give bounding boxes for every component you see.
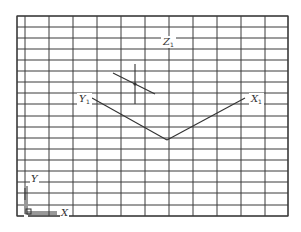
y1-axis-label-subscript: 1 (86, 98, 90, 105)
marker-point (133, 82, 136, 85)
z1-axis-label-subscript: 1 (170, 41, 174, 48)
y1-axis-label: Y1 (77, 93, 92, 105)
x1-axis-label-subscript: 1 (258, 98, 262, 105)
drawing-canvas[interactable]: Y1X1Z1 YX (0, 0, 301, 232)
ucs-x-label: X (60, 207, 69, 218)
z1-axis-label: Z1 (161, 36, 176, 48)
x1-axis-label: X1 (249, 93, 264, 105)
